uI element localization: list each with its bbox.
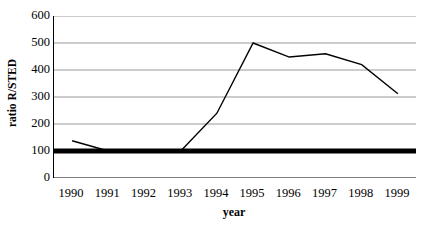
x-axis-tick-label: 1998	[343, 183, 379, 203]
x-axis-tick-label: 1997	[306, 183, 342, 203]
x-axis-tick-label: 1991	[89, 183, 125, 203]
y-axis-tick-label: 400	[20, 63, 50, 76]
chart-plot-svg	[54, 16, 416, 178]
x-axis-tick-labels: 1990199119921993199419951996199719981999	[53, 183, 415, 203]
chart-container: ratio R/STED 0100200300400500600 1990199…	[0, 0, 430, 235]
x-axis-tick-label: 1996	[270, 183, 306, 203]
y-axis-tick-label: 300	[20, 90, 50, 103]
x-axis-tick-label: 1995	[234, 183, 270, 203]
y-axis-tick-label: 0	[20, 171, 50, 184]
y-axis-tick-label: 600	[20, 9, 50, 22]
plot-area	[53, 16, 415, 178]
y-axis-title-text: ratio R/STED	[6, 58, 18, 126]
gridlines	[54, 16, 416, 124]
x-axis-title: year	[53, 205, 415, 220]
y-axis-tick-label: 200	[20, 117, 50, 130]
x-axis-tick-label: 1999	[379, 183, 415, 203]
x-axis-tick-label: 1992	[125, 183, 161, 203]
y-axis-tick-label: 100	[20, 144, 50, 157]
x-axis-tick-label: 1993	[162, 183, 198, 203]
y-axis-tick-labels: 0100200300400500600	[20, 0, 50, 185]
y-axis-tick-label: 500	[20, 36, 50, 49]
x-axis-tick-label: 1990	[53, 183, 89, 203]
x-axis-tick-label: 1994	[198, 183, 234, 203]
